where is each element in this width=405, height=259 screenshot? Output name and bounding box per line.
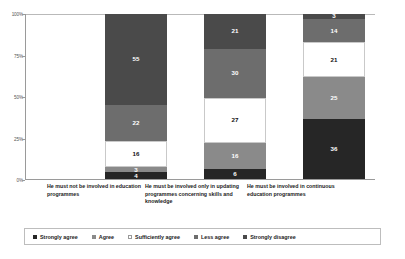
legend-item[interactable]: Strongly disagree	[243, 234, 296, 240]
bar-segment[interactable]: 30	[204, 49, 266, 99]
bar-segment[interactable]: 16	[204, 143, 266, 169]
bar-segment-value: 36	[331, 146, 338, 152]
stacked-bar[interactable]: 362521143	[303, 14, 365, 179]
legend-swatch-icon	[243, 235, 247, 239]
bar-segment-value: 30	[232, 70, 239, 76]
bar-segment[interactable]: 36	[303, 119, 365, 179]
y-axis-tick	[22, 97, 25, 98]
bar-segment-value: 21	[331, 57, 338, 63]
legend-label: Strongly disagree	[250, 234, 296, 240]
legend-label: Sufficiently agree	[135, 234, 180, 240]
legend-label: Agree	[99, 234, 114, 240]
y-axis-tick	[22, 180, 25, 181]
stacked-bar[interactable]: 616273021	[204, 14, 266, 179]
legend-item[interactable]: Sufficiently agree	[128, 234, 180, 240]
y-axis-line	[25, 14, 26, 180]
bar-segment-value: 4	[134, 173, 137, 179]
y-axis-tick	[22, 56, 25, 57]
bar-segment[interactable]: 55	[105, 14, 167, 105]
bar-segment[interactable]: 14	[303, 19, 365, 42]
bar-segment-value: 6	[233, 171, 236, 177]
legend-label: Less agree	[201, 234, 229, 240]
bar-segment-value: 16	[133, 151, 140, 157]
bar-segment[interactable]: 4	[105, 172, 167, 179]
legend-item[interactable]: Agree	[92, 234, 114, 240]
y-axis-labels: 0%25%50%75%100%	[0, 14, 23, 180]
bar-segment[interactable]: 27	[204, 98, 266, 143]
bar-segment[interactable]: 25	[303, 77, 365, 119]
bar-segment[interactable]: 6	[204, 169, 266, 179]
stacked-bar[interactable]: 43162255	[105, 14, 167, 179]
x-axis-category-label: He must be involved only in updating pro…	[145, 183, 255, 206]
bar-segment-value: 25	[331, 95, 338, 101]
legend-label: Strongly agree	[40, 234, 78, 240]
legend-item[interactable]: Strongly agree	[33, 234, 78, 240]
legend-swatch-icon	[128, 235, 132, 239]
x-axis-category-label: He must be involved in continuous educat…	[247, 183, 357, 198]
plot-area: 43162255616273021362521143	[25, 14, 375, 180]
x-axis-category-labels: He must not be involved in education pro…	[25, 183, 375, 215]
bar-segment-value: 55	[133, 56, 140, 62]
y-axis-tick	[22, 139, 25, 140]
x-axis-category-label: He must not be involved in education pro…	[47, 183, 157, 198]
legend-item[interactable]: Less agree	[194, 234, 229, 240]
bar-segment[interactable]: 21	[303, 42, 365, 77]
legend-swatch-icon	[33, 235, 37, 239]
bar-segment-value: 14	[331, 28, 338, 34]
chart-legend: Strongly agreeAgreeSufficiently agreeLes…	[24, 228, 381, 245]
bar-segment-value: 22	[133, 120, 140, 126]
y-axis-tick	[22, 14, 25, 15]
bar-segment[interactable]: 16	[105, 141, 167, 167]
bar-segment-value: 16	[232, 153, 239, 159]
legend-swatch-icon	[92, 235, 96, 239]
chart-container: 0%25%50%75%100% 431622556162730213625211…	[0, 0, 405, 259]
legend-swatch-icon	[194, 235, 198, 239]
bar-segment-value: 27	[232, 117, 239, 123]
bar-segment[interactable]: 21	[204, 14, 266, 49]
bar-segment-value: 21	[232, 28, 239, 34]
x-axis-line	[25, 179, 375, 180]
bar-segment[interactable]: 22	[105, 105, 167, 141]
